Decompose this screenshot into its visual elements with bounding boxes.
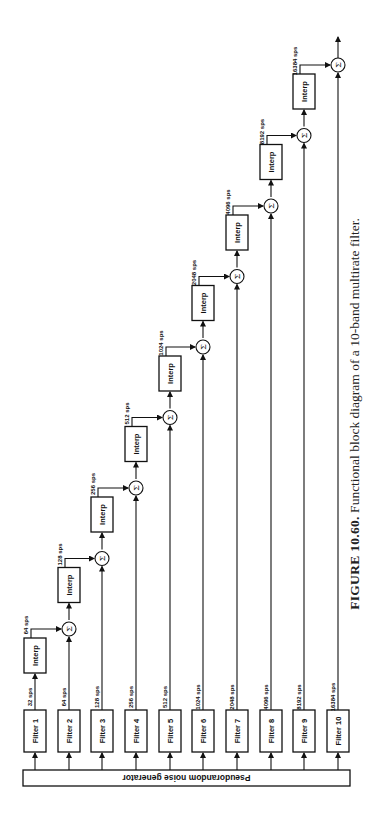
figure-caption-text: Functional block diagram of a 10-band mu… (347, 218, 362, 513)
filter-label: Filter 2 (65, 719, 74, 744)
sigma-icon: Σ (65, 626, 74, 632)
interp-label: Interp (166, 363, 175, 384)
interp-rate-label: 8192 sps (259, 118, 265, 144)
filter-label: Filter 6 (199, 719, 208, 744)
figure-number: FIGURE 10.60. (347, 516, 362, 610)
interp-label: Interp (31, 645, 40, 666)
sigma-icon: Σ (199, 344, 208, 350)
interp-label: Interp (300, 81, 309, 102)
filter-rate-label: 16384 sps (330, 682, 336, 711)
sigma-icon: Σ (300, 132, 309, 138)
filter-label: Filter 1 (31, 719, 40, 744)
filter-rate-label: 32 sps (27, 687, 33, 706)
filter-label: Filter 8 (267, 719, 276, 744)
interp-label: Interp (199, 292, 208, 313)
interp-rate-label: 512 sps (124, 402, 130, 425)
interp-rate-label: 128 sps (57, 543, 63, 566)
filter-label: Filter 10 (334, 717, 343, 746)
interp-label: Interp (132, 433, 141, 454)
interp-rate-label: 1024 sps (158, 330, 164, 356)
filter-label: Filter 5 (166, 719, 175, 744)
filter-rate-label: 1024 sps (195, 684, 201, 710)
interp-label: Interp (267, 151, 276, 172)
interp-rate-label: 4096 sps (225, 189, 231, 215)
sigma-icon: Σ (166, 414, 175, 420)
filter-rate-label: 512 sps (162, 685, 168, 708)
sigma-icon: Σ (132, 485, 141, 491)
sigma-icon: Σ (233, 273, 242, 279)
interp-rate-label: 2048 sps (191, 259, 197, 285)
filter-label: Filter 3 (98, 719, 107, 744)
sigma-icon: Σ (267, 203, 276, 209)
filter-rate-label: 128 sps (94, 685, 100, 708)
filter-rate-label: 256 sps (128, 685, 134, 708)
filter-rate-label: 64 sps (61, 687, 67, 706)
sigma-icon: Σ (334, 62, 343, 68)
filter-label: Filter 7 (233, 719, 242, 744)
noise-generator-label: Pseudorandom noise generator (122, 773, 251, 783)
interp-rate-label: 16384 sps (292, 46, 298, 75)
filter-rate-label: 2048 sps (229, 684, 235, 710)
filter-label: Filter 9 (300, 719, 309, 744)
filter-rate-label: 4096 sps (263, 684, 269, 710)
interp-label: Interp (233, 222, 242, 243)
sigma-icon: Σ (98, 555, 107, 561)
interp-label: Interp (98, 504, 107, 525)
figure-caption: FIGURE 10.60. Functional block diagram o… (347, 218, 363, 610)
interp-label: Interp (65, 574, 74, 595)
filter-rate-label: 8192 sps (296, 684, 302, 710)
filter-label: Filter 4 (132, 718, 141, 743)
multirate-filter-diagram: Pseudorandom noise generatorFilter 132 s… (0, 0, 375, 828)
interp-rate-label: 256 sps (90, 472, 96, 495)
interp-rate-label: 64 sps (23, 615, 29, 634)
